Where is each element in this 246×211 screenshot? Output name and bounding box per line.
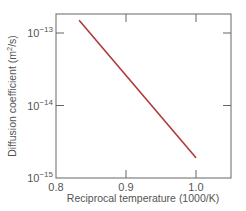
data-series-line: [79, 20, 196, 158]
x-axis-ticks: 0.80.91.0: [48, 14, 203, 193]
chart: 0.80.91.0 10−1310−1410−15 Reciprocal tem…: [0, 0, 246, 211]
x-axis-title: Reciprocal temperature (1000/K): [67, 192, 219, 204]
y-tick-label: 10−13: [27, 25, 53, 39]
y-tick-label: 10−14: [27, 98, 53, 112]
y-axis-title: Diffusion coefficient (m2/s): [5, 35, 18, 157]
x-tick-label: 0.8: [48, 181, 63, 193]
y-axis-ticks: 10−1310−1410−15: [27, 25, 231, 184]
